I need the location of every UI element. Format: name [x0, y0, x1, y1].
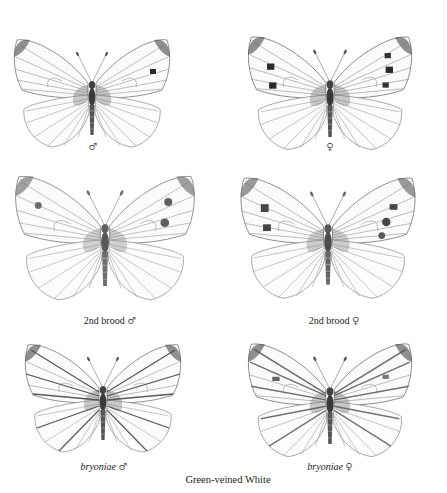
female-symbol: ♀ [326, 141, 333, 152]
butterfly-female [248, 37, 412, 150]
butterfly-second-brood-male [15, 176, 194, 299]
label-bryoniae-female: bryoniae ♀ [307, 461, 352, 472]
label-bryoniae-male: bryoniae ♂ [80, 461, 127, 472]
label-text: bryoniae [307, 461, 343, 472]
butterfly-second-brood-female [241, 178, 416, 298]
female-symbol: ♀ [352, 315, 359, 326]
butterfly-male [14, 40, 170, 147]
label-second-brood-female: 2nd brood ♀ [309, 315, 360, 326]
male-symbol: ♂ [119, 461, 128, 472]
butterfly-bryoniae-male [25, 345, 181, 452]
label-second-brood-male: 2nd brood ♂ [84, 315, 136, 326]
plate-caption: Green-veined White [185, 474, 270, 485]
label-male: ♂ [89, 141, 98, 152]
male-symbol: ♂ [89, 141, 98, 152]
label-female: ♀ [326, 141, 333, 152]
butterfly-bryoniae-female [248, 344, 412, 457]
male-symbol: ♂ [127, 315, 136, 326]
label-text: 2nd brood [309, 315, 350, 326]
label-text: bryoniae [80, 461, 116, 472]
label-text: 2nd brood [84, 315, 125, 326]
butterflies-drawing [0, 0, 447, 493]
illustration-plate: ♂ ♀ 2nd brood ♂ 2nd brood ♀ bryoniae ♂ b… [0, 0, 447, 493]
female-symbol: ♀ [345, 461, 352, 472]
